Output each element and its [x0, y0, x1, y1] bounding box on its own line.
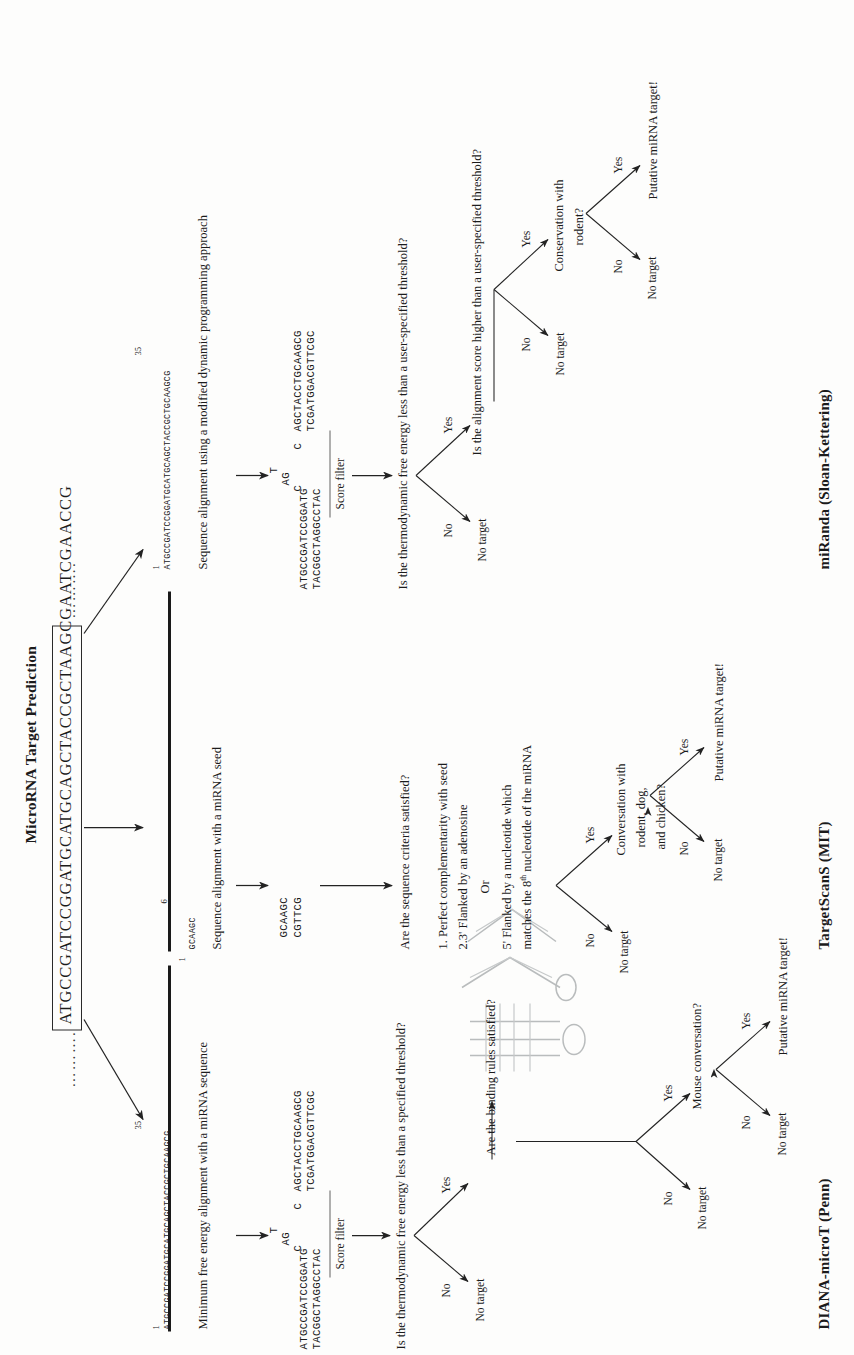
targetscans-q1-no-label: No [584, 933, 597, 947]
diana-q4-yes-label: Yes [740, 1012, 753, 1029]
targetscans-conservation-line2: rodent, dog, [634, 787, 648, 847]
miranda-q3-no-outcome: No target [646, 256, 659, 299]
miranda-raw-sequence: ATGCCGATCCGGATGCATGCAGCTACCGCTGCAAGCG [163, 370, 173, 569]
miranda-index-end: 35 [134, 346, 144, 355]
targetscans-criterion-3b: matches the 8th nucleotide of the miRNA [520, 745, 535, 950]
targetscans-pipeline-name: TargetScanS (MIT) [816, 821, 833, 949]
miranda-q1-yes-label: Yes [442, 416, 455, 433]
targetscans-q2-no-label: No [678, 841, 691, 855]
targetscans-q1-no-outcome: No target [618, 930, 631, 973]
diana-question-free-energy: Is the thermodynamic free energy less th… [394, 1022, 408, 1349]
miranda-q3-yes-label: Yes [612, 156, 625, 173]
diana-q1-no-outcome: No target [474, 1278, 487, 1321]
diana-duplex-bottom-left: TACGGCTAGGCCTAC [311, 1248, 323, 1349]
diana-duplex-bulge-c2: C [292, 1202, 304, 1209]
miranda-duplex-top-right: AGCTACCTGCAAGCG [292, 330, 304, 431]
miranda-q2-no-label: No [520, 337, 533, 351]
diana-score-filter-label: Score filter [334, 1218, 347, 1269]
miranda-index-start: 1 [152, 565, 162, 569]
ordinal-suffix: th [519, 874, 528, 880]
diana-q1-no-label: No [440, 1283, 453, 1297]
column-divider-right [168, 591, 171, 951]
targetscans-final-outcome: Putative miRNA target! [712, 662, 726, 781]
targetscans-q2-no-outcome: No target [712, 838, 725, 881]
diana-index-start: 1 [152, 1325, 162, 1329]
miranda-score-filter-label: Score filter [334, 458, 347, 509]
targetscans-duplex-bottom: CGTTCG [292, 896, 304, 937]
miranda-conservation-line1: Conservation with [552, 179, 566, 271]
diana-duplex-top-right: AGCTACCTGCAAGCG [292, 1090, 304, 1191]
figure-canvas: MicroRNA Target Prediction ………. ATGCCGAT… [0, 0, 854, 1355]
diana-q3-no-outcome: No target [696, 1186, 709, 1229]
miranda-duplex-bottom-right: TCGATGGACGTTCGC [305, 330, 317, 431]
miranda-q1-no-label: No [442, 523, 455, 537]
miranda-final-outcome: Putative miRNA target! [646, 80, 660, 199]
diana-duplex-bottom-right: TCGATGGACGTTCGC [305, 1090, 317, 1191]
targetscans-criterion-2: 2.3' Flanked by an adenosine [456, 804, 470, 949]
diana-step-alignment: Minimum free energy alignment with a miR… [196, 1041, 210, 1329]
diana-q4-no-label: No [740, 1115, 753, 1129]
miranda-q2-yes-label: Yes [520, 230, 533, 247]
miranda-question-free-energy: Is the thermodynamic free energy less th… [396, 237, 410, 589]
diana-final-outcome: Putative miRNA target! [776, 936, 790, 1055]
targetscans-criterion-or: Or [478, 880, 492, 893]
diana-question-binding-rules: Are the binding rules satisfied? [484, 999, 498, 1155]
miranda-conservation-line2: rodent? [572, 208, 586, 245]
miranda-duplex-bulge-c2: C [292, 442, 304, 449]
miranda-duplex-bottom-left: TACGGCTAGGCCTAC [311, 488, 323, 589]
targetscans-raw-sequence: GCAAGC [188, 917, 198, 949]
miranda-q3-no-label: No [612, 259, 625, 273]
targetscans-conservation-line1: Conversation with [614, 763, 628, 855]
diana-pipeline-name: DIANA-microT (Penn) [816, 1178, 833, 1329]
figure-title: MicroRNA Target Prediction [22, 646, 40, 844]
diana-q1-yes-label: Yes [440, 1176, 453, 1193]
diana-index-end: 35 [134, 1120, 144, 1129]
diana-question-mouse-conservation: Mouse conversation? [690, 1002, 704, 1109]
miranda-question-alignment-score: Is the alignment score higher than a use… [470, 148, 484, 455]
targetscans-q2-yes-label: Yes [678, 738, 691, 755]
targetscans-criterion-1: 1. Perfect complementarity with seed [436, 763, 450, 949]
targetscans-index-end: 6 [160, 899, 170, 903]
targetscans-index-start: 1 [178, 957, 188, 961]
miranda-q1-no-outcome: No target [476, 518, 489, 561]
diana-duplex-top-left: ATGCCGATCCGGATG [298, 1248, 310, 1349]
sequence-leading-dots: ………. [62, 1029, 79, 1087]
targetscans-criterion-3a: 5' Flanked by a nucleotide which [500, 784, 514, 949]
diana-raw-sequence: ATGCCGATCCGGATGCATGCAGCTACCGCTGCAAGCG [163, 1130, 173, 1329]
targetscans-conservation-line3: and chicken? [654, 783, 668, 849]
diana-duplex-bulge-top: T [268, 1226, 280, 1233]
diana-q3-yes-label: Yes [662, 1084, 675, 1101]
miranda-pipeline-name: miRanda (Sloan-Kettering) [816, 389, 833, 569]
miranda-duplex-top-left: ATGCCGATCCGGATG [298, 488, 310, 589]
miranda-q2-no-outcome: No target [554, 332, 567, 375]
figure-page: MicroRNA Target Prediction ………. ATGCCGAT… [0, 0, 854, 1355]
sequence-trailing-dots: ………. [62, 560, 79, 618]
diana-duplex-bulge-mid: AG [280, 1231, 292, 1245]
targetscans-question-criteria: Are the sequence criteria satisfied? [398, 774, 412, 949]
miranda-duplex-bulge-top: T [268, 466, 280, 473]
targetscans-duplex-top: GCAAGC [278, 896, 290, 937]
targetscans-step-seed-alignment: Sequence alignment with a miRNA seed [210, 747, 224, 949]
miranda-duplex-bulge-mid: AG [280, 471, 292, 485]
diana-q4-no-outcome: No target [776, 1112, 789, 1155]
diana-q3-no-label: No [662, 1191, 675, 1205]
miranda-step-alignment: Sequence alignment using a modified dyna… [196, 215, 210, 569]
targetscans-q1-yes-label: Yes [584, 826, 597, 843]
